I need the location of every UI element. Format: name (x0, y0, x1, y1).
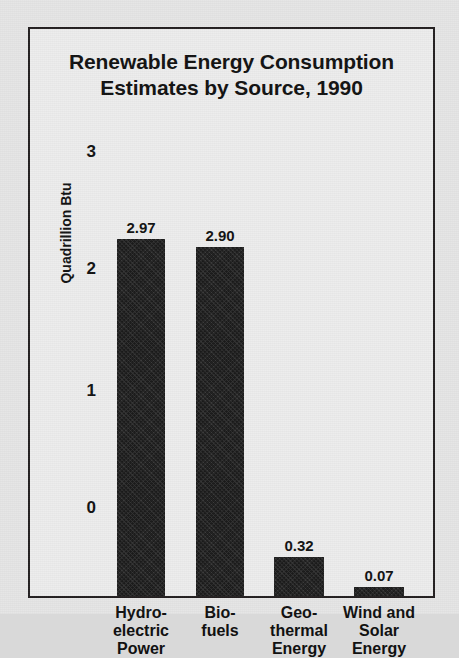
y-tick-0: 0 (70, 499, 96, 516)
bar-geothermal-energy[interactable] (274, 557, 324, 596)
plot-area: Quadrillion Btu 3 2 1 0 2.97 Hydro- elec… (30, 29, 433, 596)
bar-biofuels[interactable] (196, 247, 244, 596)
bar-hydroelectric-power[interactable] (117, 239, 165, 596)
y-tick-3: 3 (70, 143, 96, 160)
bar-category-line: Wind and (330, 604, 428, 622)
bar-category-wind-and-solar-energy: Wind and Solar Energy (330, 604, 428, 658)
y-tick-1: 1 (70, 382, 96, 399)
bar-group-hydroelectric-power: 2.97 Hydro- electric Power (117, 112, 165, 596)
bar-group-biofuels: 2.90 Bio- fuels (196, 112, 244, 596)
chart-frame: Renewable Energy Consumption Estimates b… (28, 27, 435, 598)
bar-value-wind-and-solar-energy: 0.07 (332, 568, 426, 583)
y-tick-2: 2 (70, 260, 96, 277)
bar-category-line: Solar (330, 622, 428, 640)
y-axis-label: Quadrillion Btu (58, 153, 74, 313)
bar-group-wind-and-solar-energy: 0.07 Wind and Solar Energy (354, 112, 404, 596)
bar-category-line: Energy (330, 640, 428, 658)
bar-wind-and-solar-energy[interactable] (354, 587, 404, 596)
bar-group-geothermal-energy: 0.32 Geo- thermal Energy (274, 112, 324, 596)
bar-category-line: Power (93, 640, 189, 658)
bar-value-biofuels: 2.90 (174, 228, 266, 243)
bar-value-geothermal-energy: 0.32 (252, 538, 346, 553)
